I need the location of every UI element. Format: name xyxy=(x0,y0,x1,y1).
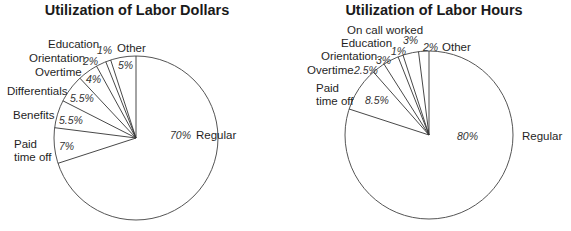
slice-percent: 70% xyxy=(170,129,191,141)
slice-percent: 2% xyxy=(422,41,438,53)
slice-label: Regular xyxy=(522,130,562,142)
slice-label: Overtime xyxy=(307,64,354,76)
slice-label: Differentials xyxy=(7,85,68,97)
slice-percent: 7% xyxy=(59,140,74,152)
slice-percent: 1% xyxy=(97,44,112,56)
slice-percent: 2.5% xyxy=(353,64,378,76)
slice-label: Other xyxy=(117,42,146,54)
slice-percent: 4% xyxy=(86,73,101,85)
slice-percent: 3% xyxy=(376,54,391,66)
slice-label: Orientation xyxy=(321,50,377,62)
slice-percent: 5.5% xyxy=(70,92,94,104)
slice-percent: 5.5% xyxy=(59,114,83,126)
pie-charts-canvas: Other5%Education1%Orientation2%Overtime4… xyxy=(0,0,571,231)
slice-label: Other xyxy=(442,41,471,53)
slice-label: Paidtime off xyxy=(14,138,52,163)
slice-label: Education xyxy=(341,37,392,49)
slice-label: Overtime xyxy=(35,66,82,78)
slice-percent: 80% xyxy=(457,130,478,142)
slice-label: Regular xyxy=(196,129,236,141)
slice-percent: 5% xyxy=(118,59,133,71)
slice-label: Orientation xyxy=(29,52,85,64)
slice-label: Benefits xyxy=(13,109,55,121)
pie-0: Other5%Education1%Orientation2%Overtime4… xyxy=(7,38,236,220)
slice-label: Paidtime off xyxy=(316,82,354,107)
slice-percent: 1% xyxy=(391,45,406,57)
slice-percent: 8.5% xyxy=(365,94,389,106)
pie-1: Other2%On call worked3%Education1%Orient… xyxy=(307,24,562,219)
slice-percent: 2% xyxy=(82,55,98,67)
slice-label: Education xyxy=(48,38,99,50)
